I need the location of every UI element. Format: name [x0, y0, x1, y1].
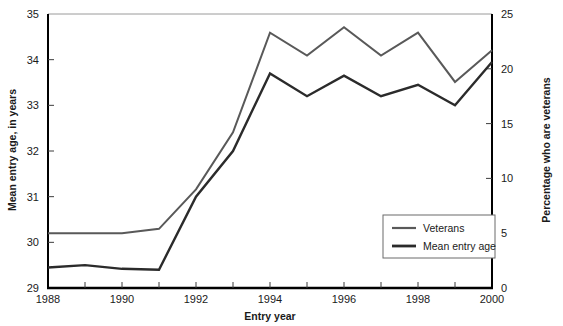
y2-tick-label: 5: [501, 227, 507, 239]
legend-label-mean-entry-age: Mean entry age: [423, 240, 496, 252]
chart-legend: Veterans Mean entry age: [383, 215, 496, 258]
x-tick-label: 1996: [332, 293, 356, 305]
y2-axis-title: Percentage who are veterans: [540, 77, 552, 222]
y-tick-label: 32: [27, 145, 39, 157]
y2-tick-label: 15: [501, 118, 513, 130]
x-tick-label: 2000: [480, 293, 504, 305]
line-chart: 2930313233343505101520251988199019921994…: [0, 0, 563, 326]
x-tick-label: 1992: [184, 293, 208, 305]
x-tick-label: 1998: [406, 293, 430, 305]
y-tick-label: 31: [27, 191, 39, 203]
x-tick-label: 1988: [36, 293, 60, 305]
y-tick-label: 30: [27, 236, 39, 248]
y2-tick-label: 20: [501, 63, 513, 75]
y2-tick-label: 10: [501, 172, 513, 184]
x-axis-title: Entry year: [244, 310, 295, 322]
y2-tick-label: 25: [501, 8, 513, 20]
y-axis-title: Mean entry age, in years: [6, 89, 18, 211]
y-tick-label: 35: [27, 8, 39, 20]
legend-label-veterans: Veterans: [423, 222, 464, 234]
x-tick-label: 1994: [258, 293, 282, 305]
y-tick-label: 33: [27, 99, 39, 111]
chart-background: [0, 0, 563, 326]
y-tick-label: 34: [27, 54, 39, 66]
x-tick-label: 1990: [110, 293, 134, 305]
chart-container: 2930313233343505101520251988199019921994…: [0, 0, 563, 326]
